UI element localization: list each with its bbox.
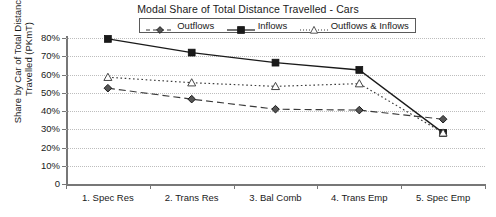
y-tick-label: 80% [26, 32, 60, 43]
x-tick-mark [66, 184, 67, 189]
x-category-label: 1. Spec Res [66, 192, 150, 203]
marker-diamond [439, 115, 447, 123]
marker-square [356, 67, 363, 74]
series-outflows-inflows [104, 73, 447, 136]
legend-key-square-solid [227, 21, 255, 31]
legend-item-outflows: Outflows [144, 21, 216, 31]
series-layer [66, 38, 485, 184]
marker-diamond [356, 106, 364, 114]
y-tick-label: 50% [26, 87, 60, 98]
x-tick-mark [485, 184, 486, 189]
legend-label-outflows-and-inflows: Outflows & Inflows [331, 21, 409, 31]
y-tick-label: 0 [26, 178, 60, 189]
y-tick-label: 60% [26, 69, 60, 80]
legend-key-triangle-dotted [300, 21, 328, 31]
marker-square [272, 59, 279, 66]
marker-diamond [188, 95, 196, 103]
y-tick-label: 40% [26, 105, 60, 116]
chart-container: Modal Share of Total Distance Travelled … [0, 0, 496, 217]
chart-title: Modal Share of Total Distance Travelled … [0, 3, 496, 15]
legend-item-outflows-and-inflows: Outflows & Inflows [298, 21, 411, 31]
marker-diamond [104, 84, 112, 92]
x-category-label: 4. Trans Emp [317, 192, 401, 203]
y-tick-label: 30% [26, 123, 60, 134]
legend-label-inflows: Inflows [258, 21, 288, 31]
marker-diamond [272, 105, 280, 113]
y-tick-label: 20% [26, 142, 60, 153]
x-tick-mark [401, 184, 402, 189]
x-tick-mark [150, 184, 151, 189]
marker-triangle [104, 73, 112, 80]
legend-label-outflows: Outflows [177, 21, 214, 31]
legend-key-diamond-dashed [146, 21, 174, 31]
x-tick-mark [317, 184, 318, 189]
x-axis-line [66, 184, 486, 186]
x-category-label: 2. Trans Res [150, 192, 234, 203]
series-outflows [104, 84, 447, 123]
marker-square [188, 49, 195, 56]
chart-legend: Outflows Inflows Outflows & Inflows [139, 18, 416, 33]
x-tick-mark [234, 184, 235, 189]
x-category-label: 5. Spec Emp [401, 192, 485, 203]
y-tick-label: 10% [26, 160, 60, 171]
marker-square [105, 36, 112, 43]
legend-item-inflows: Inflows [225, 21, 290, 31]
y-tick-label: 70% [26, 50, 60, 61]
x-category-label: 3. Bal Comb [234, 192, 318, 203]
y-axis-title-line1: Share by Car of Total Distance [12, 0, 23, 139]
